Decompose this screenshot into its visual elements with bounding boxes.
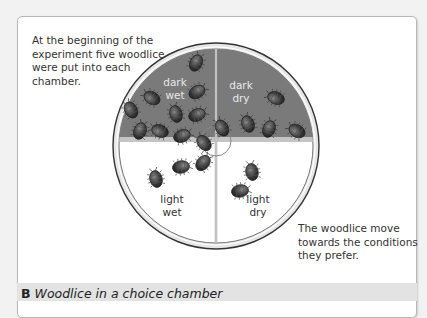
figure-label: B bbox=[21, 286, 31, 301]
label-light-wet-1: light bbox=[160, 193, 183, 205]
label-dark-wet-2: wet bbox=[165, 89, 184, 101]
figure-caption: BWoodlice in a choice chamber bbox=[21, 286, 222, 301]
label-light-dry-2: dry bbox=[249, 206, 266, 218]
label-dark-dry-2: dry bbox=[232, 92, 249, 104]
label-light-wet-2: wet bbox=[162, 206, 181, 218]
figure-caption-text: Woodlice in a choice chamber bbox=[35, 286, 223, 301]
result-annotation: The woodlice move towards the conditions… bbox=[298, 222, 423, 263]
label-light-dry-1: light bbox=[246, 193, 269, 205]
label-dark-wet-1: dark bbox=[163, 76, 187, 88]
label-dark-dry-1: dark bbox=[229, 79, 253, 91]
